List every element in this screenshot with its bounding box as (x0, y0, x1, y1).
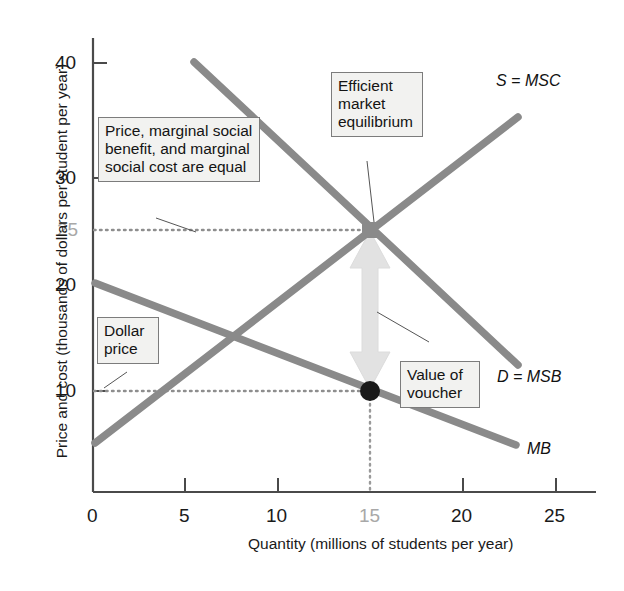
x-axis-title: Quantity (millions of students per year) (248, 535, 513, 553)
dollar-price-marker (360, 381, 380, 401)
y-axis-title: Price and cost (thousands of dollars per… (53, 51, 71, 471)
efficient-equilibrium-leader-line (367, 161, 374, 222)
efficient-market-equilibrium-callout: Efficient market equilibrium (331, 72, 423, 137)
marginal-benefit-curve-label: MB (527, 440, 551, 458)
demand-curve-label: D = MSB (497, 368, 561, 386)
price-marginal-social-benefit-callout: Price, marginal social benefit, and marg… (98, 117, 260, 182)
x-tick-label-25: 25 (544, 505, 565, 527)
value-of-voucher-leader-line (377, 312, 429, 342)
dollar-price-leader-line (104, 372, 127, 388)
x-tick-label-5: 5 (179, 505, 190, 527)
x-tick-label-15: 15 (359, 505, 380, 527)
x-tick-label-0: 0 (87, 505, 98, 527)
x-tick-label-20: 20 (451, 505, 472, 527)
supply-curve-label: S = MSC (496, 72, 560, 90)
value-of-voucher-callout: Value of voucher (400, 361, 480, 408)
value-of-voucher-arrow (350, 231, 390, 389)
x-tick-label-10: 10 (266, 505, 287, 527)
economics-chart-figure: 40 30 25 20 10 0 5 10 15 20 25 Price and… (0, 0, 624, 591)
efficient-market-equilibrium-marker (362, 222, 378, 238)
dollar-price-callout: Dollar price (97, 317, 159, 364)
